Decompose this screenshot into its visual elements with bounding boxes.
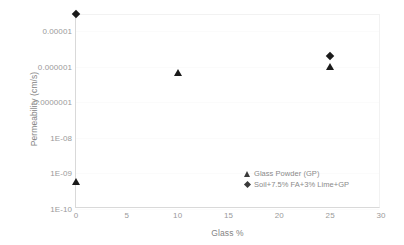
- data-point-triangle: [174, 69, 182, 76]
- y-axis-tick-label: 1E-08: [50, 133, 72, 142]
- gridline: [76, 31, 379, 32]
- legend-label: Glass Powder (GP): [254, 168, 319, 179]
- gridline: [76, 138, 379, 139]
- data-point-triangle: [326, 63, 334, 70]
- x-axis-tick-label: 25: [326, 211, 335, 220]
- x-axis-tick-label: 20: [275, 211, 284, 220]
- diamond-marker-icon: [243, 180, 252, 189]
- chart-legend: Glass Powder (GP)Soil+7.5% FA+3% Lime+GP: [243, 168, 349, 190]
- x-axis-tick-label: 30: [376, 211, 385, 220]
- y-axis-tick-label: 1E-10: [50, 205, 72, 214]
- data-point-diamond: [326, 52, 334, 60]
- y-axis-tick-label: 0.00001: [42, 27, 72, 36]
- data-point-diamond: [72, 10, 80, 18]
- permeability-vs-glass-percent-chart: Permeability (cm/s) 0.000010.0000010.000…: [0, 0, 404, 245]
- gridline: [76, 102, 379, 103]
- y-axis-tick-label: 0.000001: [38, 62, 72, 71]
- gridline: [76, 209, 379, 210]
- legend-label: Soil+7.5% FA+3% Lime+GP: [254, 179, 349, 190]
- x-axis-title: Glass %: [75, 228, 380, 238]
- data-point-triangle: [72, 178, 80, 185]
- y-axis-tick-label: 0.0000001: [33, 98, 72, 107]
- x-axis-tick-label: 10: [173, 211, 182, 220]
- x-axis-tick-label: 5: [125, 211, 130, 220]
- triangle-marker-icon: [243, 169, 252, 178]
- x-axis-tick-label: 15: [224, 211, 233, 220]
- legend-entry: Soil+7.5% FA+3% Lime+GP: [243, 179, 349, 190]
- legend-entry: Glass Powder (GP): [243, 168, 349, 179]
- y-axis-title: Permeability (cm/s): [29, 29, 39, 189]
- y-axis-tick-label: 1E-09: [50, 169, 72, 178]
- x-axis-tick-label: 0: [74, 211, 79, 220]
